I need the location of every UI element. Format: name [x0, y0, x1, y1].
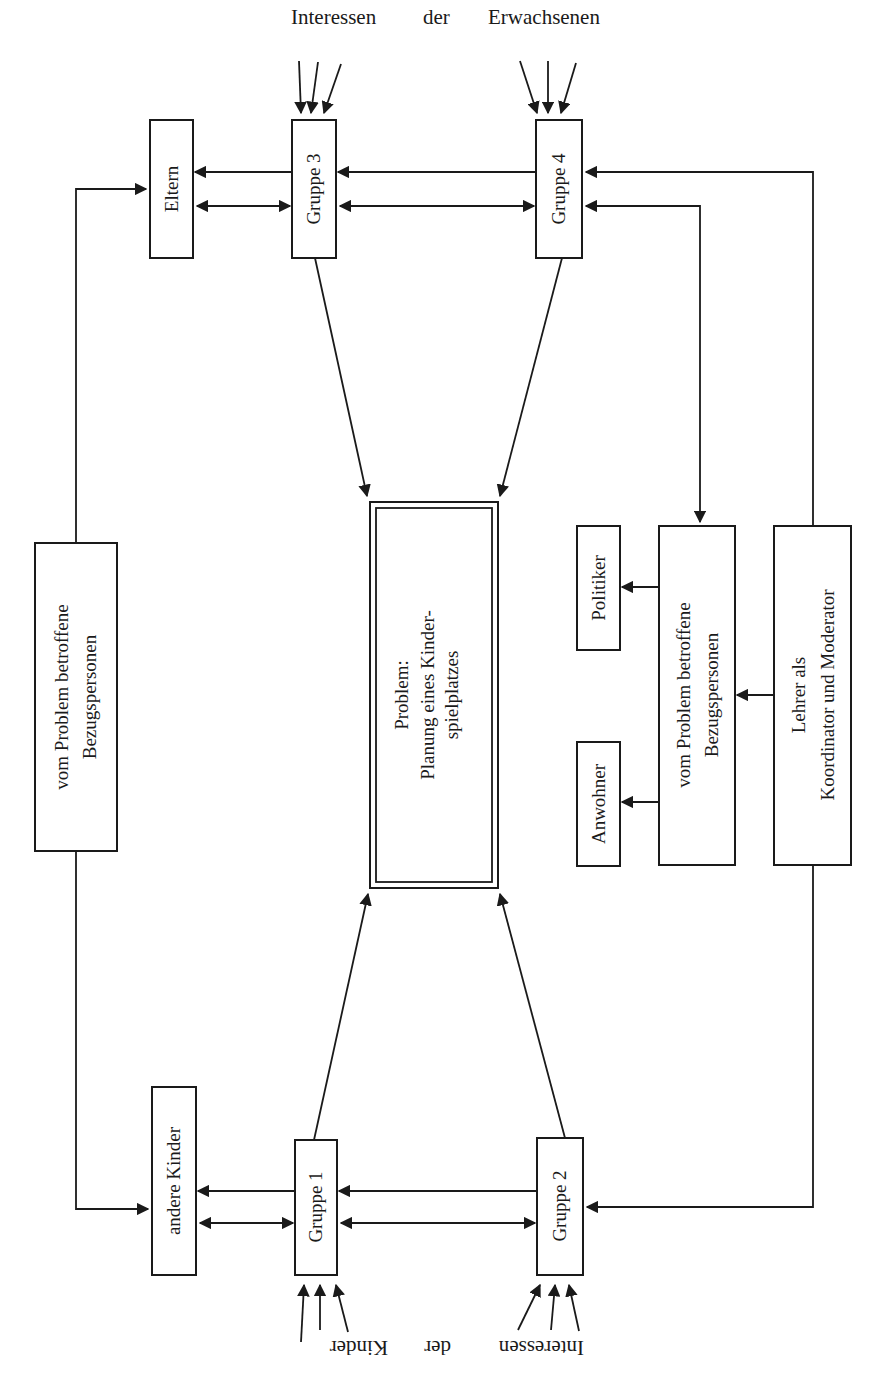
child-interest-arrows-g1: [301, 1285, 348, 1342]
gruppe-4-box: Gruppe 4: [536, 120, 582, 258]
bottom-label-word-3: Kinder: [330, 1336, 388, 1360]
gruppe-2-label: Gruppe 2: [549, 1170, 570, 1241]
anwohner-box: Anwohner: [577, 742, 620, 866]
right-bezug-line-1: vom Problem betroffene: [673, 602, 694, 787]
gruppe-1-label: Gruppe 1: [305, 1171, 326, 1242]
anwohner-label: Anwohner: [588, 763, 609, 844]
lehrer-box: Lehrer als Koordinator und Moderator: [774, 526, 851, 865]
andere-kinder-label: andere Kinder: [163, 1126, 184, 1235]
problem-line-2: Planung eines Kinder-: [417, 610, 438, 780]
politiker-label: Politiker: [588, 555, 609, 621]
politiker-box: Politiker: [577, 526, 620, 650]
bottom-label-word-2: der: [424, 1336, 451, 1360]
problem-line-3: spielplatzes: [441, 651, 462, 740]
eltern-label: Eltern: [161, 165, 182, 212]
gruppe-4-label: Gruppe 4: [548, 153, 569, 225]
top-label: Interessen der Erwachsenen: [291, 5, 600, 29]
lehrer-line-2: Koordinator und Moderator: [817, 589, 838, 801]
adult-interest-arrows-g4: [520, 61, 576, 113]
problem-box: Problem: Planung eines Kinder- spielplat…: [370, 502, 498, 888]
left-bezug-line-1: vom Problem betroffene: [51, 604, 72, 789]
top-to-problem-arrows: [315, 258, 562, 496]
child-interest-arrows-g2: [518, 1285, 579, 1331]
eltern-box: Eltern: [150, 120, 193, 258]
top-label-word-1: Interessen: [291, 5, 377, 29]
gruppe-2-box: Gruppe 2: [537, 1138, 583, 1275]
planning-diagram: Interessen der Erwachsenen Eltern Gruppe…: [0, 0, 883, 1376]
left-bezugspersonen-box: vom Problem betroffene Bezugspersonen: [35, 543, 117, 851]
bottom-label: Interessen der Kinder: [330, 1336, 584, 1360]
right-bezugspersonen-box: vom Problem betroffene Bezugspersonen: [659, 526, 735, 865]
adult-interest-arrows-g3: [299, 61, 341, 113]
andere-kinder-box: andere Kinder: [152, 1087, 196, 1275]
problem-title: Problem:: [391, 660, 412, 730]
gruppe-3-box: Gruppe 3: [292, 120, 336, 258]
top-label-word-2: der: [423, 5, 450, 29]
bottom-to-problem-arrows: [314, 894, 565, 1140]
gruppe-1-box: Gruppe 1: [295, 1140, 337, 1275]
lehrer-line-1: Lehrer als: [788, 657, 809, 733]
gruppe-3-label: Gruppe 3: [303, 153, 324, 224]
right-bezug-line-2: Bezugspersonen: [701, 632, 722, 757]
left-bezug-line-2: Bezugspersonen: [79, 634, 100, 759]
top-label-word-3: Erwachsenen: [488, 5, 600, 29]
bottom-label-word-1: Interessen: [498, 1336, 584, 1360]
